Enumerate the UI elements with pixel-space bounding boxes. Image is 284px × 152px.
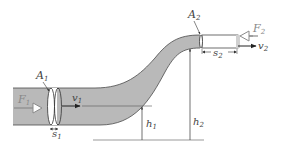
label-f2: F2 — [252, 22, 266, 36]
label-h1: h1 — [146, 118, 157, 131]
label-s1: s1 — [52, 128, 62, 141]
label-s2: s2 — [213, 47, 223, 60]
label-a1: A1 — [35, 69, 48, 83]
label-h2: h2 — [193, 116, 204, 129]
label-a2: A2 — [187, 8, 201, 22]
cross-section-a2 — [200, 35, 241, 48]
a2-leader-line — [194, 21, 200, 34]
label-v2: v2 — [258, 40, 269, 53]
bernoulli-pipe-diagram: A1 A2 F1 F2 v1 v2 s1 s2 h1 h2 — [0, 0, 284, 152]
